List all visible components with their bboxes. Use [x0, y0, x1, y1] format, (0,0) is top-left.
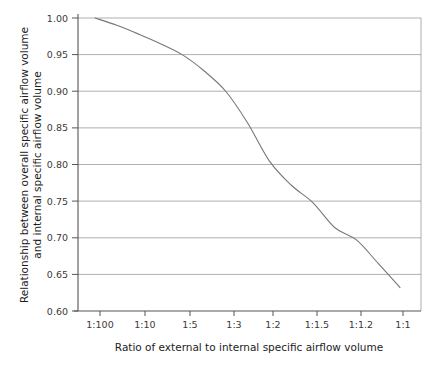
x-tick-label-1:3: 1:3 [226, 319, 241, 330]
y-tick-label-0.90: 0.90 [47, 86, 68, 97]
x-tick-label-1:1: 1:1 [395, 319, 410, 330]
x-tick-label-1:5: 1:5 [182, 319, 197, 330]
chart-svg: 1.00 0.95 0.90 0.85 0.80 0.75 0.70 0.65 … [0, 0, 441, 377]
y-tick-label-0.65: 0.65 [47, 269, 68, 280]
y-tick-label-0.85: 0.85 [47, 122, 68, 133]
chart-figure: 1.00 0.95 0.90 0.85 0.80 0.75 0.70 0.65 … [0, 0, 441, 377]
x-tick-label-1:10: 1:10 [134, 319, 155, 330]
y-tick-label-0.95: 0.95 [47, 49, 68, 60]
y-axis-title-line1: Relationship between overall specific ai… [18, 27, 30, 303]
y-tick-label-0.60: 0.60 [47, 306, 68, 317]
x-tick-label-1:1.2: 1:1.2 [349, 319, 373, 330]
y-axis-title-line2: and internal specific airflow volume [31, 71, 43, 258]
x-tick-label-1:1.5: 1:1.5 [305, 319, 329, 330]
x-axis-title: Ratio of external to internal specific a… [115, 341, 383, 353]
y-axis-tick-labels: 1.00 0.95 0.90 0.85 0.80 0.75 0.70 0.65 … [47, 13, 68, 317]
y-tick-label-0.70: 0.70 [47, 232, 68, 243]
y-tick-label-0.75: 0.75 [47, 196, 68, 207]
x-tick-label-1:100: 1:100 [86, 319, 113, 330]
y-tick-label-0.80: 0.80 [47, 159, 68, 170]
x-tick-label-1:2: 1:2 [265, 319, 280, 330]
y-tick-label-1.00: 1.00 [47, 13, 68, 24]
